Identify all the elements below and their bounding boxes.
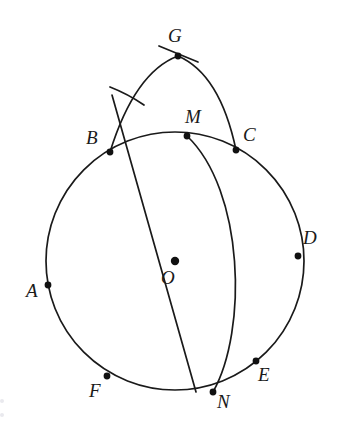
- label-e: E: [258, 365, 270, 384]
- line-g-m-n: [112, 95, 196, 392]
- label-d: D: [303, 228, 317, 247]
- figure-canvas: [0, 0, 341, 433]
- point-dot-d: [295, 253, 302, 260]
- point-dot-c: [233, 147, 240, 154]
- point-dot-a: [45, 282, 52, 289]
- scan-artifact: [0, 399, 4, 403]
- point-dot-b: [107, 149, 114, 156]
- arc-b-g-c: [110, 56, 236, 152]
- label-a: A: [26, 281, 38, 300]
- center-dot-o: [171, 257, 179, 265]
- arc-m-n: [187, 136, 235, 392]
- label-m: M: [185, 107, 201, 126]
- label-c: C: [243, 125, 256, 144]
- scan-artifact: [0, 413, 4, 417]
- point-dot-m: [184, 133, 191, 140]
- label-g: G: [168, 26, 182, 45]
- point-dot-g: [175, 53, 182, 60]
- label-o: O: [161, 268, 175, 287]
- label-b: B: [86, 128, 98, 147]
- geometry-figure: G B M C D A O F N E: [0, 0, 341, 433]
- label-n: N: [217, 392, 230, 411]
- point-dot-n: [210, 389, 217, 396]
- label-f: F: [89, 381, 101, 400]
- point-dot-f: [104, 373, 111, 380]
